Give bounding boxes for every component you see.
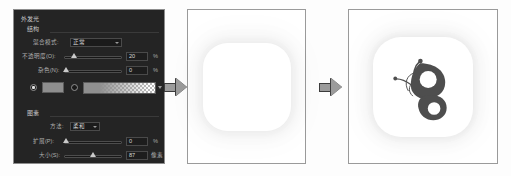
gradient-dropdown-chevron-icon[interactable] — [158, 86, 162, 89]
row-spread: 扩展(P): 0 % — [14, 137, 164, 148]
outer-glow-dialog: 外发光 结构 混合模式: 正常 不透明度(O): 20 % 杂色(N): — [13, 9, 165, 164]
opacity-value-field[interactable]: 20 — [126, 52, 148, 61]
label-noise: 杂色(N): — [38, 68, 59, 74]
radio-solid-color[interactable] — [30, 84, 37, 91]
label-method: 方法: — [50, 124, 64, 130]
size-slider-thumb[interactable] — [90, 152, 96, 157]
noise-value: 0 — [129, 67, 132, 73]
spread-value-field[interactable]: 0 — [126, 137, 148, 146]
preview-glow-only — [187, 9, 306, 164]
method-value: 柔和 — [73, 123, 85, 129]
opacity-value: 20 — [129, 53, 135, 59]
row-noise: 杂色(N): 0 % — [14, 66, 164, 77]
spread-unit: % — [153, 139, 158, 145]
size-value: 87 — [129, 152, 135, 158]
dialog-title: 外发光 — [21, 16, 40, 22]
spread-value: 0 — [129, 138, 132, 144]
squircle-wrap — [373, 37, 473, 137]
butterfly-logo-icon — [386, 50, 460, 124]
chevron-down-icon — [93, 126, 97, 128]
butterfly-lower-hole — [428, 102, 441, 115]
radio-gradient[interactable] — [71, 84, 78, 91]
blend-mode-dropdown[interactable]: 正常 — [70, 38, 122, 47]
divider-structure — [50, 32, 159, 33]
spread-slider-track[interactable] — [64, 141, 122, 144]
size-value-field[interactable]: 87 — [126, 151, 148, 160]
preview-glow-with-logo — [348, 9, 498, 164]
label-blend-mode: 混合模式: — [33, 40, 59, 46]
arrow-right-icon-1 — [164, 78, 188, 97]
opacity-unit: % — [153, 54, 158, 60]
noise-slider-thumb[interactable] — [63, 67, 69, 72]
spread-slider-thumb[interactable] — [63, 138, 69, 143]
size-unit: 像素 — [151, 153, 163, 159]
label-size: 大小(S): — [39, 153, 60, 159]
row-opacity: 不透明度(O): 20 % — [14, 52, 164, 63]
noise-slider-track[interactable] — [64, 70, 122, 73]
section-header-structure: 结构 — [27, 26, 39, 32]
label-spread: 扩展(P): — [33, 139, 54, 145]
label-opacity: 不透明度(O): — [22, 54, 56, 60]
section-header-elements: 图素 — [27, 110, 39, 116]
blend-mode-value: 正常 — [73, 39, 85, 45]
divider-elements — [50, 116, 159, 117]
noise-unit: % — [153, 68, 158, 74]
white-squircle-shape — [203, 43, 291, 131]
glow-gradient-swatch[interactable] — [83, 82, 156, 94]
row-blend-mode: 混合模式: 正常 — [14, 38, 164, 49]
chevron-down-icon — [115, 42, 119, 44]
butterfly-upper-hole — [420, 71, 437, 88]
row-size: 大小(S): 87 像素 — [14, 151, 164, 162]
arrow-right-icon-2 — [319, 78, 343, 97]
noise-value-field[interactable]: 0 — [126, 66, 148, 75]
row-glow-fill — [14, 82, 164, 96]
glow-color-swatch[interactable] — [42, 82, 64, 93]
screenshot-root: 外发光 结构 混合模式: 正常 不透明度(O): 20 % 杂色(N): — [0, 0, 511, 176]
row-method: 方法: 柔和 — [14, 122, 164, 133]
squircle-wrap — [203, 43, 291, 131]
white-squircle-shape — [373, 37, 473, 137]
opacity-slider-thumb[interactable] — [71, 53, 77, 58]
method-dropdown[interactable]: 柔和 — [70, 122, 100, 131]
